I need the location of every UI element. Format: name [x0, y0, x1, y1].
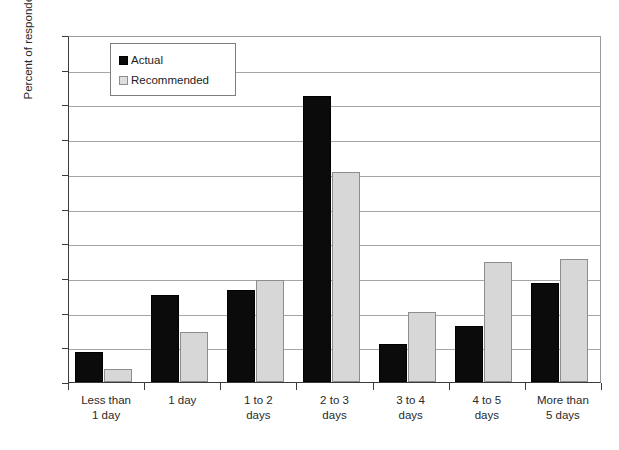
x-tick-label: 3 to 4 days [373, 393, 449, 423]
bar-recommended [332, 172, 360, 382]
bar-actual [227, 290, 255, 382]
bar-actual [379, 344, 407, 382]
x-tick-mark [220, 383, 221, 390]
x-tick-mark [525, 383, 526, 390]
y-axis-title: Percent of respondents [18, 0, 38, 140]
legend-item: Recommended [119, 70, 235, 90]
bar-actual [151, 295, 179, 382]
x-tick-mark [601, 383, 602, 390]
bar-chart: Percent of respondents 50%45%40%35%30%25… [0, 0, 619, 450]
bar-actual [531, 283, 559, 382]
x-tick-label: 2 to 3 days [296, 393, 372, 423]
bar-group [450, 37, 526, 382]
chart-legend: Actual Recommended [110, 43, 236, 96]
bar-actual [455, 326, 483, 382]
x-tick-label: 1 day [144, 393, 220, 408]
x-tick-label: 1 to 2 days [220, 393, 296, 423]
bar-recommended [104, 369, 132, 382]
bar-group [374, 37, 450, 382]
black-square-icon [119, 56, 128, 65]
bar-group [526, 37, 602, 382]
bar-recommended [256, 280, 284, 382]
x-tick-mark [449, 383, 450, 390]
bar-recommended [408, 312, 436, 382]
x-tick-mark [144, 383, 145, 390]
bar-recommended [484, 262, 512, 382]
x-tick-label: 4 to 5 days [449, 393, 525, 423]
bar-recommended [560, 259, 588, 382]
x-tick-label: Less than 1 day [68, 393, 144, 423]
x-tick-mark [373, 383, 374, 390]
legend-item: Actual [119, 50, 235, 70]
x-tick-label: More than 5 days [525, 393, 601, 423]
bar-group [297, 37, 373, 382]
x-tick-mark [68, 383, 69, 390]
gray-square-icon [119, 76, 128, 85]
bar-recommended [180, 332, 208, 382]
legend-item-label: Actual [131, 54, 163, 66]
x-tick-mark [296, 383, 297, 390]
bar-actual [75, 352, 103, 382]
bar-actual [303, 96, 331, 382]
legend-item-label: Recommended [131, 74, 209, 86]
